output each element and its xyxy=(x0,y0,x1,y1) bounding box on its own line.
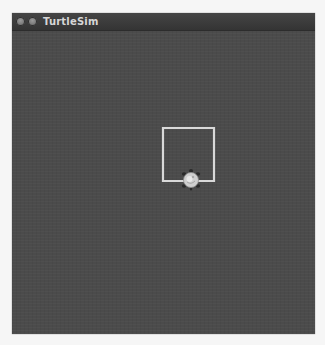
turtlesim-window: TurtleSim xyxy=(12,13,315,334)
drawing-surface xyxy=(12,31,315,334)
turtle-canvas xyxy=(12,31,315,334)
close-button[interactable] xyxy=(16,17,25,26)
title-bar[interactable]: TurtleSim xyxy=(12,13,315,31)
minimize-button[interactable] xyxy=(28,17,37,26)
window-title: TurtleSim xyxy=(43,15,99,28)
turtle-icon xyxy=(182,169,200,191)
